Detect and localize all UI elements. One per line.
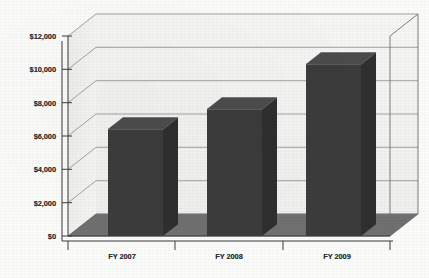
x-axis-ticks bbox=[68, 241, 390, 250]
x-axis-line bbox=[62, 236, 393, 241]
bar-fy-2009 bbox=[306, 53, 376, 237]
y-axis-line bbox=[62, 36, 68, 241]
y-tick-label-2: $4,000 bbox=[2, 165, 56, 174]
bar-chart-figure: $0 $2,000 $4,000 $6,000 $8,000 $10,000 $… bbox=[0, 0, 429, 278]
y-tick-label-3: $6,000 bbox=[2, 132, 56, 141]
x-category-label-fy-2007: FY 2007 bbox=[90, 252, 154, 261]
x-category-label-fy-2009: FY 2009 bbox=[305, 252, 369, 261]
bar-fy-2007 bbox=[108, 118, 178, 237]
bar-fy-2008 bbox=[207, 98, 277, 237]
chart-plot-area bbox=[0, 0, 429, 278]
y-tick-label-5: $10,000 bbox=[2, 65, 56, 74]
y-tick-label-0: $0 bbox=[2, 232, 56, 241]
y-tick-label-6: $12,000 bbox=[2, 32, 56, 41]
x-category-label-fy-2008: FY 2008 bbox=[197, 252, 261, 261]
y-tick-label-1: $2,000 bbox=[2, 198, 56, 207]
y-tick-label-4: $8,000 bbox=[2, 98, 56, 107]
